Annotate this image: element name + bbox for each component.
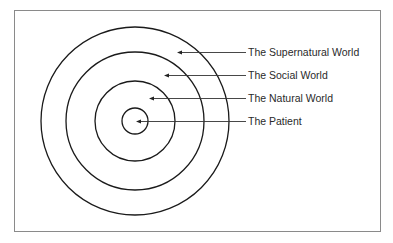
arrow-the-social-world xyxy=(164,74,246,78)
label-the-social-world: The Social World xyxy=(248,69,328,81)
label-the-supernatural-world: The Supernatural World xyxy=(248,46,359,58)
arrow-the-natural-world xyxy=(149,97,246,101)
rings-group xyxy=(41,27,229,215)
ring-the-supernatural-world xyxy=(41,27,229,215)
arrowhead-icon xyxy=(164,74,169,78)
concentric-worlds-diagram xyxy=(0,0,393,243)
ring-the-patient xyxy=(122,108,148,134)
diagram-frame xyxy=(15,11,381,232)
label-the-patient: The Patient xyxy=(248,115,302,127)
label-the-natural-world: The Natural World xyxy=(248,92,333,104)
ring-the-social-world xyxy=(66,52,204,190)
arrows-group xyxy=(136,51,246,124)
arrowhead-icon xyxy=(177,51,182,55)
arrow-the-supernatural-world xyxy=(177,51,246,55)
ring-the-natural-world xyxy=(95,81,175,161)
arrowhead-icon xyxy=(136,120,141,124)
arrowhead-icon xyxy=(149,97,154,101)
